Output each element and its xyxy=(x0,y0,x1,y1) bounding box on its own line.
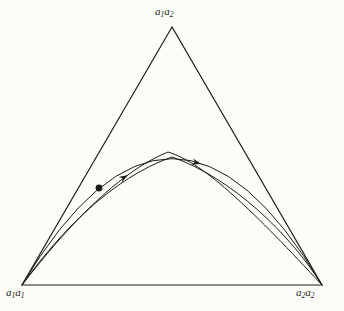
definetti-diagram xyxy=(0,0,344,311)
start-point-dot xyxy=(96,185,103,192)
vertex-label-bottom-left: a1a1 xyxy=(6,286,25,298)
vertex-label-top: a1a2 xyxy=(155,5,174,17)
figure-background xyxy=(0,0,344,311)
vertex-label-bottom-right: a2a2 xyxy=(296,286,315,298)
